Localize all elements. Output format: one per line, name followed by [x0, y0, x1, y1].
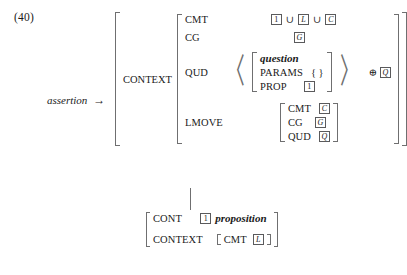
prop-value: 1 [304, 81, 324, 92]
tag-l-bottom-icon: L [253, 234, 264, 245]
cg-row: CG G [185, 32, 391, 43]
params-feature-label: PARAMS [260, 67, 303, 78]
lmove-row: LMOVE CMT C CG [185, 101, 391, 144]
assertion-text: assertion [47, 94, 87, 106]
lmove-cg-row: CG G [288, 117, 330, 128]
lmove-cmt-feature-label: CMT [288, 103, 311, 114]
tag-q-lmove-icon: Q [319, 131, 330, 142]
cont-row: CONT 1 proposition [153, 212, 271, 224]
tag-1-cont-icon: 1 [200, 213, 211, 224]
outer-bracket: CONTEXT CMT 1 ∪ L ∪ C [115, 10, 407, 148]
tag-g-icon: G [294, 32, 305, 43]
lmove-matrix: CMT C CG G [288, 103, 330, 142]
question-type-label: question [260, 52, 324, 64]
context-bracket: CMT 1 ∪ L ∪ C CG G [177, 12, 399, 146]
lmove-cmt-value: C [319, 103, 330, 114]
lmove-cg-value: G [315, 117, 330, 128]
bottom-cmt-row: CMT L [224, 234, 264, 245]
bottom-context-bracket: CMT L [217, 232, 271, 247]
angle-bracket-group: 〈 question PARAMS { } [218, 50, 366, 94]
angle-bracket-left-icon: 〈 [226, 59, 245, 85]
append-operator-icon: ⊕ [368, 67, 378, 78]
bottom-context-value: CMT L [217, 232, 271, 247]
lmove-cg-feature-label: CG [288, 117, 307, 128]
tag-g-lmove-icon: G [315, 117, 326, 128]
cmt-feature-label: CMT [185, 14, 263, 25]
lmove-qud-row: QUD Q [288, 131, 330, 142]
lmove-qud-feature-label: QUD [288, 131, 311, 142]
union-operator-1: ∪ [285, 14, 295, 25]
bottom-context-feature-label: CONTEXT [153, 234, 203, 245]
lmove-cmt-row: CMT C [288, 103, 330, 114]
context-feature-label: CONTEXT [123, 74, 172, 85]
proposition-type-label: proposition [215, 212, 266, 224]
tag-l-icon: L [298, 14, 309, 25]
tag-c-icon: C [325, 14, 336, 25]
cmt-row: CMT 1 ∪ L ∪ C [185, 14, 391, 25]
bottom-context-row: CONTEXT CMT L [153, 232, 271, 247]
angle-bracket-right-icon: 〉 [339, 59, 358, 85]
cont-feature-label: CONT [153, 213, 186, 224]
prop-feature-label: PROP [260, 81, 296, 92]
cg-feature-label: CG [185, 32, 286, 43]
lmove-bracket: CMT C CG G [280, 101, 391, 144]
context-inner-matrix: CMT 1 ∪ L ∪ C CG G [185, 14, 391, 144]
tag-1-icon: 1 [271, 14, 282, 25]
cmt-value: 1 ∪ L ∪ C [271, 14, 391, 25]
cont-value: 1 proposition [200, 212, 271, 224]
qud-value: 〈 question PARAMS { } [218, 50, 391, 94]
params-row: PARAMS { } [260, 67, 324, 78]
lmove-feature-label: LMOVE [185, 117, 276, 128]
qud-feature-label: QUD [185, 67, 208, 78]
bottom-bracket: CONT 1 proposition CONTEXT CMT L [146, 210, 278, 249]
bottom-feature-structure: CONT 1 proposition CONTEXT CMT L [146, 210, 278, 251]
tag-q-icon: Q [380, 67, 391, 78]
qud-row: QUD 〈 question PARAMS { } [185, 50, 391, 94]
context-row: CONTEXT CMT 1 ∪ L ∪ C [123, 12, 399, 146]
bottom-matrix: CONT 1 proposition CONTEXT CMT L [153, 212, 271, 247]
example-number: (40) [14, 11, 34, 23]
lmove-qud-value: Q [319, 131, 330, 142]
assertion-label: assertion→ [47, 93, 105, 108]
question-matrix: question PARAMS { } PROP [260, 52, 324, 92]
question-bracket: question PARAMS { } PROP [252, 50, 332, 94]
cg-value: G [294, 32, 391, 43]
bottom-cmt-feature-label: CMT [224, 234, 247, 245]
bottom-cmt-value: L [253, 234, 264, 245]
arrow-icon: → [87, 93, 105, 107]
qud-append-expression: ⊕ Q [366, 67, 391, 78]
tag-c-lmove-icon: C [319, 103, 330, 114]
prop-row: PROP 1 [260, 81, 324, 92]
tag-1-prop-icon: 1 [304, 81, 315, 92]
outer-feature-structure: CONTEXT CMT 1 ∪ L ∪ C [115, 10, 407, 150]
params-value: { } [311, 67, 324, 78]
union-operator-2: ∪ [312, 14, 322, 25]
structure-connector-line [190, 188, 191, 210]
